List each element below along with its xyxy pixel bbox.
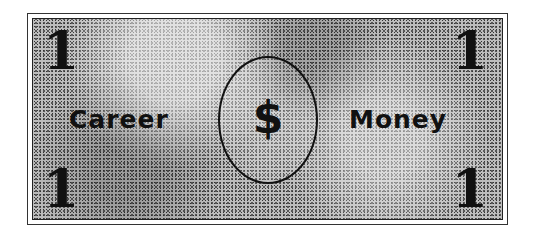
career-money-bill: 1 1 1 1 Career $ Money — [27, 13, 508, 225]
money-label: Money — [349, 105, 447, 134]
denomination-bottom-left: 1 — [43, 163, 79, 215]
bill-face: 1 1 1 1 Career $ Money — [32, 18, 503, 220]
dollar-seal: $ — [218, 56, 318, 184]
denomination-top-left: 1 — [43, 25, 79, 77]
denomination-top-right: 1 — [452, 25, 488, 77]
career-label: Career — [69, 105, 169, 134]
dollar-sign-icon: $ — [220, 92, 316, 143]
denomination-bottom-right: 1 — [452, 163, 488, 215]
